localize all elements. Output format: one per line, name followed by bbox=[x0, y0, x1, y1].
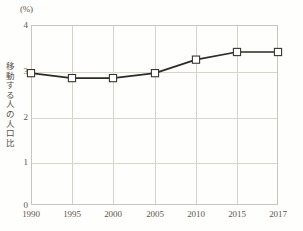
x-tick-label: 1990 bbox=[11, 209, 51, 219]
plot-area bbox=[31, 25, 278, 205]
gridline-horizontal bbox=[32, 163, 277, 164]
y-tick-label: 2 bbox=[16, 113, 28, 122]
line-chart: (%) 移動する人の人口比 4 3 2 1 0 1990 1995 2000 2… bbox=[0, 0, 303, 231]
gridline-horizontal bbox=[32, 72, 277, 73]
x-tick-label: 2000 bbox=[93, 209, 133, 219]
gridline-horizontal bbox=[32, 118, 277, 119]
x-tick-label: 2005 bbox=[135, 209, 175, 219]
x-tick-label: 2017 bbox=[258, 209, 298, 219]
gridline-vertical bbox=[155, 26, 156, 204]
gridline-vertical bbox=[72, 26, 73, 204]
gridline-vertical bbox=[113, 26, 114, 204]
gridline-vertical bbox=[237, 26, 238, 204]
y-tick-label: 4 bbox=[16, 21, 28, 30]
x-tick-label: 2015 bbox=[217, 209, 257, 219]
y-tick-label: 1 bbox=[16, 158, 28, 167]
x-tick-label: 2010 bbox=[176, 209, 216, 219]
y-axis-tick-labels: 4 3 2 1 0 bbox=[12, 0, 28, 231]
y-tick-label: 3 bbox=[16, 67, 28, 76]
x-tick-label: 1995 bbox=[52, 209, 92, 219]
gridline-vertical bbox=[196, 26, 197, 204]
